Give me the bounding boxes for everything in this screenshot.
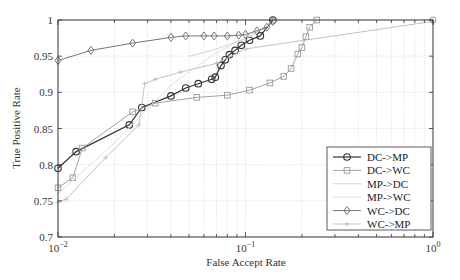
- legend-label: WC->DC: [367, 205, 410, 217]
- y-tick-label: 0.95: [34, 50, 54, 62]
- y-tick-label: 0.8: [39, 159, 53, 171]
- y-tick-label: 0.9: [39, 86, 53, 98]
- legend-label: DC->MP: [367, 151, 408, 163]
- legend-label: MP->DC: [367, 178, 408, 190]
- x-axis-label: False Accept Rate: [206, 256, 286, 268]
- series-wc-to-dc: [55, 17, 276, 64]
- legend: DC->MPDC->WCMP->DCMP->WCWC->DCWC->MP: [327, 147, 431, 230]
- x-tick-label: 100: [426, 240, 441, 254]
- legend-label: WC->MP: [367, 218, 410, 230]
- roc-chart: 0.70.750.80.850.90.951 10−210−1100 False…: [0, 0, 460, 280]
- y-tick-label: 0.85: [34, 123, 54, 135]
- series-dc-to-wc: [55, 17, 319, 190]
- y-tick-label: 1: [48, 14, 54, 26]
- x-tick-label: 10−1: [236, 240, 256, 254]
- x-tick-label: 10−2: [48, 240, 68, 254]
- series-dc-to-mp: [55, 17, 276, 172]
- y-axis-label: True Positive Rate: [10, 87, 22, 169]
- legend-label: MP->WC: [367, 191, 410, 203]
- y-tick-label: 0.75: [34, 195, 54, 207]
- legend-label: DC->WC: [367, 164, 410, 176]
